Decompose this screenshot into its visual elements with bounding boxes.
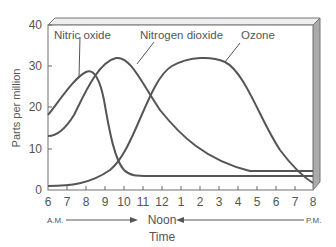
svg-text:30: 30 — [29, 59, 43, 73]
svg-text:7: 7 — [292, 195, 299, 209]
x-axis-label: Time — [149, 230, 176, 244]
frame-side — [313, 18, 320, 190]
svg-text:6: 6 — [45, 195, 52, 209]
svg-text:10: 10 — [117, 195, 131, 209]
svg-text:12: 12 — [155, 195, 169, 209]
svg-text:40: 40 — [29, 18, 43, 32]
svg-text:4: 4 — [235, 195, 242, 209]
svg-text:3: 3 — [216, 195, 223, 209]
svg-text:10: 10 — [29, 142, 43, 156]
svg-text:8: 8 — [83, 195, 90, 209]
svg-text:5: 5 — [254, 195, 261, 209]
svg-text:9: 9 — [102, 195, 109, 209]
y-axis-label: Parts per million — [10, 69, 22, 148]
svg-text:11: 11 — [137, 195, 150, 209]
chart: 0 10 20 30 40 Parts per million 6 7 8 9 … — [0, 0, 336, 247]
svg-text:6: 6 — [273, 195, 280, 209]
svg-text:20: 20 — [29, 100, 43, 114]
label-ozone: Ozone — [241, 29, 275, 41]
svg-text:7: 7 — [64, 195, 71, 209]
svg-text:1: 1 — [178, 195, 185, 209]
svg-text:0: 0 — [35, 183, 42, 197]
svg-text:P.M.: P.M. — [306, 216, 321, 225]
frame-top — [48, 18, 320, 25]
svg-text:Noon: Noon — [148, 213, 177, 227]
y-axis: 0 10 20 30 40 Parts per million — [10, 18, 52, 197]
time-annotation: A.M. Noon P.M. Time — [47, 213, 321, 244]
svg-text:A.M.: A.M. — [47, 216, 63, 225]
label-nitrogen-dioxide: Nitrogen dioxide — [140, 29, 223, 41]
plot-area — [48, 25, 313, 190]
svg-text:2: 2 — [197, 195, 204, 209]
svg-text:8: 8 — [310, 195, 317, 209]
label-nitric-oxide: Nitric oxide — [54, 29, 111, 41]
